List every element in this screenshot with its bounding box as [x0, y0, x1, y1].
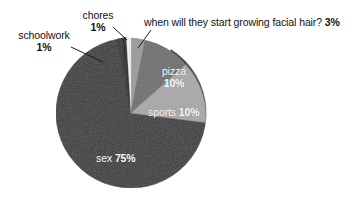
pie-label-chores: chores 1% [72, 10, 124, 34]
pie-label-sex-name: sex [96, 152, 112, 164]
pie-label-schoolwork-value: 1% [10, 42, 78, 54]
pie-label-sports-value: 10% [179, 106, 200, 118]
pie-label-sports: sports 10% [148, 107, 200, 119]
pie-label-schoolwork-name: schoolwork [10, 30, 78, 42]
pie-label-facial-hair-name: when will they start growing facial hair… [144, 16, 322, 28]
pie-label-sports-name: sports [148, 106, 176, 118]
pie-label-facial-hair: when will they start growing facial hair… [144, 17, 340, 29]
pie-label-chores-name: chores [72, 10, 124, 22]
pie-label-chores-value: 1% [72, 22, 124, 34]
pie-label-sex: sex 75% [96, 153, 136, 165]
pie-label-pizza-value: 10% [155, 78, 193, 90]
pie-label-facial-hair-value: 3% [325, 16, 340, 28]
pie-label-pizza: pizza 10% [155, 66, 193, 90]
pie-label-pizza-name: pizza [155, 66, 193, 78]
pie-label-sex-value: 75% [115, 152, 136, 164]
pie-label-schoolwork: schoolwork 1% [10, 30, 78, 54]
pie-chart-figure: chores 1% schoolwork 1% when will they s… [0, 0, 361, 213]
